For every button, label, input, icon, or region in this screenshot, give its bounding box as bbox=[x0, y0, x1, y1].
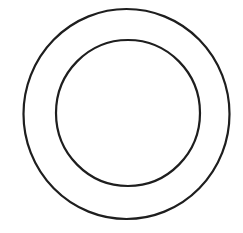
background bbox=[0, 0, 243, 233]
concentric-circles-diagram bbox=[0, 0, 243, 233]
